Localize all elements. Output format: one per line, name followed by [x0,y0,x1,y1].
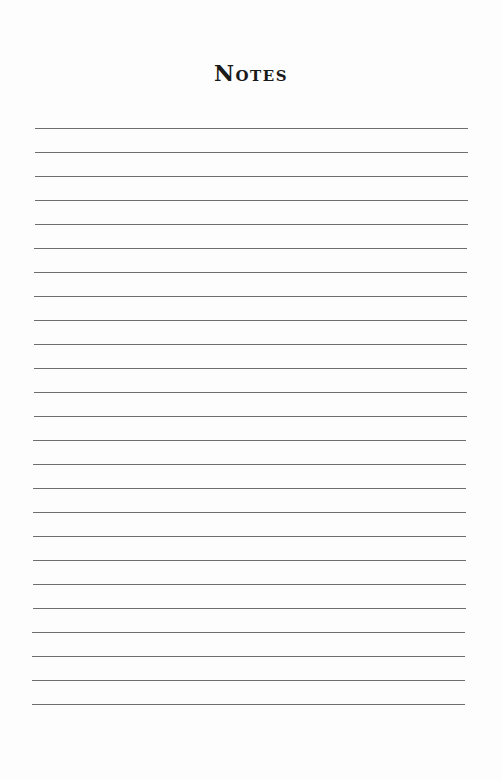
writing-line [32,656,465,657]
writing-line [33,512,466,513]
writing-line [35,176,468,177]
writing-line [34,320,467,321]
writing-line [32,632,465,633]
writing-line [32,704,465,705]
writing-line [32,680,465,681]
writing-line [33,488,466,489]
notes-page: Notes [0,0,502,780]
ruled-lines [0,0,502,780]
writing-line [34,248,467,249]
writing-line [33,464,466,465]
writing-line [35,224,468,225]
writing-line [35,128,468,129]
writing-line [33,536,466,537]
writing-line [34,296,467,297]
writing-line [34,416,467,417]
writing-line [34,272,467,273]
writing-line [34,368,467,369]
writing-line [34,392,467,393]
writing-line [33,584,466,585]
writing-line [33,608,466,609]
writing-line [34,344,467,345]
writing-line [35,200,468,201]
writing-line [33,440,466,441]
writing-line [33,560,466,561]
writing-line [35,152,468,153]
